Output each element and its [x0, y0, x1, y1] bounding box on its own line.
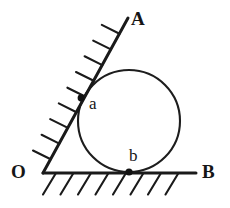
hatch-mark: [78, 173, 91, 195]
hatch-group-ray-ob: [43, 173, 179, 195]
label-tangent-point-b: b: [129, 147, 138, 164]
hatch-mark: [102, 25, 120, 34]
label-ray-end-a: A: [131, 9, 145, 28]
tangent-point-a-dot: [78, 95, 85, 102]
hatch-mark: [166, 173, 179, 195]
hatch-mark: [148, 173, 161, 195]
hatch-mark: [131, 173, 144, 195]
hatch-group-ray-oa: [33, 25, 120, 159]
hatch-mark: [33, 151, 51, 160]
hatch-mark: [43, 173, 56, 195]
hatch-mark: [59, 103, 77, 112]
hatch-mark: [93, 41, 111, 50]
hatch-mark: [96, 173, 109, 195]
hatch-mark: [113, 173, 126, 195]
hatch-mark: [85, 56, 103, 65]
hatch-mark: [76, 72, 94, 81]
label-tangent-point-a: a: [89, 95, 97, 112]
hatch-mark: [42, 135, 60, 144]
label-ray-end-b: B: [202, 162, 215, 181]
geometry-figure: O A B a b: [0, 0, 230, 208]
hatch-mark: [61, 173, 74, 195]
geometry-canvas: [0, 0, 230, 208]
tangent-point-b-dot: [125, 168, 132, 175]
ray-oa: [43, 18, 128, 173]
label-vertex-o: O: [11, 162, 26, 181]
hatch-mark: [50, 119, 68, 128]
